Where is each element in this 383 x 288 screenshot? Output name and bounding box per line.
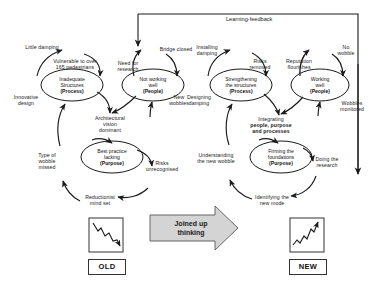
old-arrow-type-to-process — [58, 104, 65, 146]
no-wobble-label: No wobble — [330, 44, 362, 56]
new-purpose-text: Firming the foundations (Purpose) — [251, 148, 311, 166]
old-label-box: OLD — [88, 259, 126, 275]
reductionist-mindset-label: Reductionist mind set — [78, 194, 122, 206]
need-for-research-label: Need for research — [110, 60, 146, 72]
new-arrow-process-to-integrating — [264, 94, 279, 115]
architectural-vision-label: Architectural vision dominant — [86, 115, 134, 133]
new-arrow-doing-to-identifying — [291, 176, 316, 196]
designing-damping-label: Designing damping — [180, 94, 218, 106]
diagram-canvas: Learning-feedback Little damping Vulnera… — [0, 0, 383, 288]
understanding-wobble-label: Understanding the new wobble — [186, 152, 246, 164]
old-arrow-people-to-need — [112, 96, 136, 113]
little-damping-label: Little damping — [14, 44, 70, 50]
old-arrow-arch-to-purpose — [92, 139, 112, 143]
risks-unrecognised-label: Risks unrecognised — [140, 160, 184, 172]
installing-damping-label: Installing damping — [186, 44, 228, 56]
new-process-text: Strengthening the structures (Process) — [211, 76, 271, 94]
old-arrow-newwobbles-up — [150, 102, 152, 117]
old-purpose-text: Best practice lacking (Purpose) — [82, 148, 142, 166]
old-process-text: Inadequate Structures (Process) — [42, 76, 102, 94]
new-arrow-people-to-integrating — [281, 97, 303, 114]
new-arrow-understanding-to-process — [226, 104, 232, 145]
old-arrow-process-to-arch — [97, 92, 110, 113]
learning-feedback-label: Learning-feedback — [226, 16, 272, 22]
innovative-design-label: Innovative design — [6, 94, 46, 106]
new-trend-chart — [290, 218, 324, 252]
reputation-flourishes-label: Reputation flourishes — [276, 58, 322, 70]
vulnerable-label: Vulnerable to over 165 pedestrians — [44, 58, 106, 70]
old-trend-chart — [89, 218, 123, 252]
joined-up-thinking-label: Joined up thinking — [156, 219, 226, 237]
type-of-wobble-missed-label: Type of wobble missed — [30, 152, 64, 170]
old-arrow-bridge-closed — [166, 54, 177, 76]
risks-removed-label: Risks removed — [240, 58, 280, 70]
identifying-mode-label: Identifying the new mode — [248, 194, 296, 206]
old-arrow-risks-to-reduct — [118, 188, 148, 198]
new-people-text: Working well (People) — [290, 76, 350, 94]
new-arrow-wobbles-monitored-up — [318, 102, 320, 116]
new-label-box: NEW — [289, 259, 327, 275]
integrating-label: Integrating people, purpose and processe… — [240, 116, 302, 134]
doing-research-label: Doing the research — [308, 156, 346, 168]
wobbles-monitored-label: Wobbles monitored — [330, 100, 374, 112]
old-people-text: Not working well (People) — [123, 76, 183, 94]
